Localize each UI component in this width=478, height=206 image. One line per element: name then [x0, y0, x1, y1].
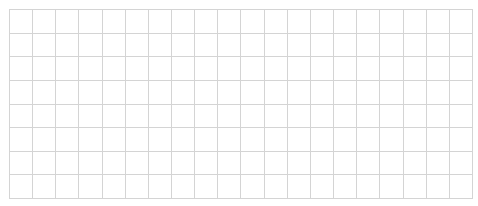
- grid-cell[interactable]: [288, 175, 311, 199]
- grid-cell[interactable]: [172, 128, 195, 152]
- grid-cell[interactable]: [218, 10, 241, 34]
- grid-cell[interactable]: [195, 152, 218, 176]
- grid-cell[interactable]: [311, 152, 334, 176]
- grid-cell[interactable]: [357, 175, 380, 199]
- grid-cell[interactable]: [404, 152, 427, 176]
- grid-cell[interactable]: [334, 81, 357, 105]
- grid-cell[interactable]: [195, 81, 218, 105]
- grid-cell[interactable]: [288, 34, 311, 58]
- grid-cell[interactable]: [79, 128, 102, 152]
- grid-cell[interactable]: [33, 34, 56, 58]
- grid-cell[interactable]: [265, 10, 288, 34]
- grid-cell[interactable]: [241, 10, 264, 34]
- grid-cell[interactable]: [10, 152, 33, 176]
- grid-cell[interactable]: [404, 128, 427, 152]
- grid-cell[interactable]: [33, 152, 56, 176]
- grid-cell[interactable]: [149, 10, 172, 34]
- grid-cell[interactable]: [103, 152, 126, 176]
- grid-cell[interactable]: [195, 175, 218, 199]
- grid-cell[interactable]: [265, 175, 288, 199]
- grid-cell[interactable]: [126, 105, 149, 129]
- grid-cell[interactable]: [79, 57, 102, 81]
- grid-cell[interactable]: [103, 57, 126, 81]
- grid-cell[interactable]: [56, 81, 79, 105]
- grid-cell[interactable]: [33, 57, 56, 81]
- grid-cell[interactable]: [450, 57, 473, 81]
- grid-cell[interactable]: [79, 10, 102, 34]
- grid-cell[interactable]: [172, 57, 195, 81]
- grid-cell[interactable]: [427, 81, 450, 105]
- grid-cell[interactable]: [357, 81, 380, 105]
- grid-cell[interactable]: [404, 81, 427, 105]
- grid-cell[interactable]: [149, 105, 172, 129]
- grid-cell[interactable]: [149, 128, 172, 152]
- grid-cell[interactable]: [311, 81, 334, 105]
- grid-cell[interactable]: [404, 34, 427, 58]
- grid-cell[interactable]: [334, 10, 357, 34]
- grid-cell[interactable]: [172, 34, 195, 58]
- grid-cell[interactable]: [172, 10, 195, 34]
- grid-cell[interactable]: [427, 10, 450, 34]
- grid-cell[interactable]: [357, 128, 380, 152]
- grid-cell[interactable]: [172, 105, 195, 129]
- grid-cell[interactable]: [334, 105, 357, 129]
- grid-cell[interactable]: [241, 128, 264, 152]
- grid-cell[interactable]: [357, 57, 380, 81]
- grid-cell[interactable]: [334, 34, 357, 58]
- grid-cell[interactable]: [195, 57, 218, 81]
- grid-cell[interactable]: [334, 128, 357, 152]
- grid-cell[interactable]: [450, 152, 473, 176]
- grid-cell[interactable]: [10, 128, 33, 152]
- grid-cell[interactable]: [10, 81, 33, 105]
- grid-cell[interactable]: [79, 81, 102, 105]
- grid-cell[interactable]: [195, 34, 218, 58]
- grid-cell[interactable]: [126, 81, 149, 105]
- grid-cell[interactable]: [218, 34, 241, 58]
- grid-cell[interactable]: [103, 81, 126, 105]
- grid-cell[interactable]: [218, 152, 241, 176]
- grid-cell[interactable]: [404, 175, 427, 199]
- grid-cell[interactable]: [126, 10, 149, 34]
- grid-cell[interactable]: [427, 152, 450, 176]
- grid-cell[interactable]: [450, 105, 473, 129]
- grid-cell[interactable]: [450, 128, 473, 152]
- grid-cell[interactable]: [265, 128, 288, 152]
- grid-cell[interactable]: [380, 175, 403, 199]
- grid-cell[interactable]: [33, 81, 56, 105]
- grid-cell[interactable]: [311, 10, 334, 34]
- grid-cell[interactable]: [334, 57, 357, 81]
- grid-cell[interactable]: [404, 105, 427, 129]
- grid-cell[interactable]: [79, 175, 102, 199]
- grid-cell[interactable]: [149, 152, 172, 176]
- grid-cell[interactable]: [10, 57, 33, 81]
- grid-cell[interactable]: [241, 57, 264, 81]
- grid-cell[interactable]: [288, 128, 311, 152]
- grid-cell[interactable]: [195, 105, 218, 129]
- grid-cell[interactable]: [149, 57, 172, 81]
- grid-cell[interactable]: [10, 175, 33, 199]
- grid-cell[interactable]: [427, 57, 450, 81]
- grid-cell[interactable]: [380, 128, 403, 152]
- grid-cell[interactable]: [288, 10, 311, 34]
- grid-cell[interactable]: [357, 105, 380, 129]
- grid-cell[interactable]: [218, 175, 241, 199]
- grid-cell[interactable]: [10, 10, 33, 34]
- grid-cell[interactable]: [149, 81, 172, 105]
- grid-cell[interactable]: [195, 128, 218, 152]
- grid-cell[interactable]: [265, 57, 288, 81]
- grid-cell[interactable]: [218, 105, 241, 129]
- grid-cell[interactable]: [149, 34, 172, 58]
- grid-cell[interactable]: [357, 152, 380, 176]
- grid-cell[interactable]: [404, 57, 427, 81]
- grid-cell[interactable]: [427, 128, 450, 152]
- grid-cell[interactable]: [103, 105, 126, 129]
- grid-cell[interactable]: [103, 34, 126, 58]
- grid-cell[interactable]: [79, 152, 102, 176]
- grid-cell[interactable]: [126, 152, 149, 176]
- grid-cell[interactable]: [380, 10, 403, 34]
- grid-cell[interactable]: [126, 34, 149, 58]
- grid-cell[interactable]: [288, 105, 311, 129]
- grid-cell[interactable]: [103, 128, 126, 152]
- grid-cell[interactable]: [218, 128, 241, 152]
- grid-cell[interactable]: [334, 175, 357, 199]
